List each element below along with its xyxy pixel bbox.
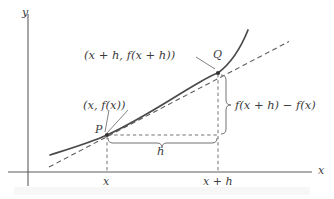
point-p-label: P [95,124,102,135]
point-q-label: Q [213,49,222,60]
y-axis-label: y [22,7,28,18]
x-tick-label-x: x [103,176,109,187]
point-q-marker [216,71,220,75]
scan-artifact-band [14,187,310,195]
horizontal-brace-label: h [157,146,164,158]
leader-lines-group [105,57,215,133]
point-q-coordinate-label: (x + h, f(x + h)) [84,50,175,62]
x-axis-label: x [318,165,324,176]
point-p-coordinate-label: (x, f(x)) [83,100,126,112]
point-p-marker [105,133,109,137]
leader-line-p [105,110,109,132]
brace-vertical-rise [221,75,231,134]
x-tick-label-x-plus-h: x + h [203,176,233,187]
figure-container: y x x x + h P Q (x + h, f(x + h)) (x, f(… [0,0,334,199]
vertical-brace-label: f(x + h) − f(x) [235,100,316,112]
